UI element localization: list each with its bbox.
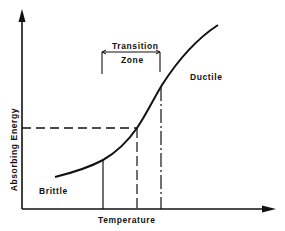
y-axis-label: Absorbing Energy (10, 125, 19, 191)
x-axis-label: Temperature (98, 216, 155, 225)
y-axis-arrow-icon (19, 9, 26, 22)
brittle-region-label: Brittle (39, 187, 68, 196)
transition-label-line1: Transition (112, 42, 159, 51)
transition-label-line2: Zone (121, 56, 144, 65)
x-axis-arrow-icon (262, 206, 276, 213)
transition-curve-diagram (0, 0, 285, 231)
ductile-region-label: Ductile (190, 73, 223, 82)
